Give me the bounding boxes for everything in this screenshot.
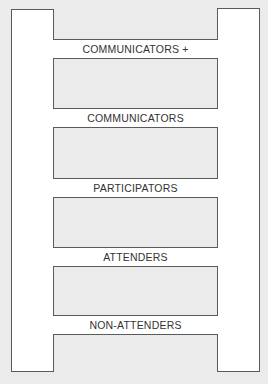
ladder-right-rail xyxy=(217,8,260,372)
rung-attenders: ATTENDERS xyxy=(53,247,218,267)
rung-participators: PARTICIPATORS xyxy=(53,178,218,198)
rung-label: PARTICIPATORS xyxy=(93,183,177,194)
rung-label: NON-ATTENDERS xyxy=(89,320,181,331)
rung-label: COMMUNICATORS + xyxy=(82,44,188,55)
rung-communicators-plus: COMMUNICATORS + xyxy=(53,39,218,59)
rung-communicators: COMMUNICATORS xyxy=(53,108,218,128)
rung-label: COMMUNICATORS xyxy=(87,113,184,124)
rung-label: ATTENDERS xyxy=(103,252,168,263)
ladder-left-rail xyxy=(11,9,54,372)
rung-non-attenders: NON-ATTENDERS xyxy=(53,315,218,335)
engagement-ladder-diagram: COMMUNICATORS + COMMUNICATORS PARTICIPAT… xyxy=(0,0,268,384)
